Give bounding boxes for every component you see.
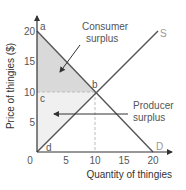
consumer-surplus-label-line1: Consumer [82, 21, 129, 32]
producer-surplus-label-line1: Producer [133, 100, 174, 111]
x-tick-20: 20 [147, 155, 159, 166]
y-tick-10: 10 [24, 87, 36, 98]
y-tick-15: 15 [24, 56, 36, 67]
point-b-label: b [92, 79, 98, 90]
supply-label: S [160, 28, 167, 39]
x-tick-15: 15 [118, 155, 130, 166]
x-tick-10: 10 [89, 155, 101, 166]
producer-surplus-label-line2: surplus [133, 112, 165, 123]
point-a-label: a [40, 21, 46, 32]
point-c-label: c [40, 93, 45, 104]
point-d-label: d [46, 142, 52, 153]
y-tick-5: 5 [29, 117, 35, 128]
surplus-chart: 0 5 10 15 20 5 10 15 20 a b c d S D Cons… [0, 0, 186, 190]
x-tick-5: 5 [63, 155, 69, 166]
demand-label: D [156, 141, 163, 152]
consumer-surplus-label-line2: surplus [86, 33, 118, 44]
x-axis-title: Quantity of thingies [86, 169, 172, 180]
y-tick-20: 20 [24, 26, 36, 37]
y-axis-title: Price of thingies ($) [5, 43, 16, 129]
origin-label: 0 [27, 155, 33, 166]
